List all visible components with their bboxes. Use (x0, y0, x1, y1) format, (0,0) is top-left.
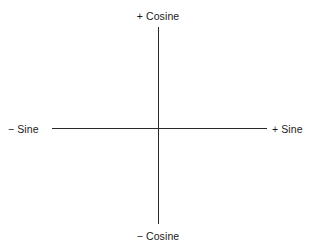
negative-cosine-label: − Cosine (137, 230, 180, 242)
horizontal-sine-axis (52, 128, 267, 129)
sine-cosine-axes-diagram: + Cosine − Cosine − Sine + Sine (0, 0, 316, 251)
positive-sine-label: + Sine (272, 123, 303, 135)
negative-sine-label: − Sine (8, 123, 39, 135)
vertical-cosine-axis (158, 27, 159, 224)
positive-cosine-label: + Cosine (137, 10, 180, 22)
